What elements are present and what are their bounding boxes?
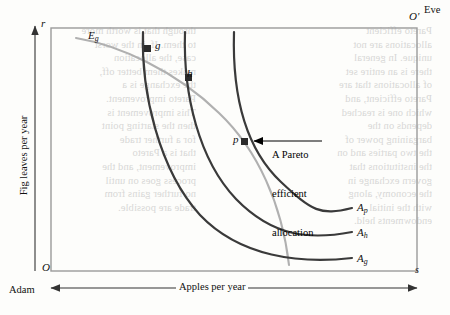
curve-adam-Ah — [185, 32, 352, 236]
edgeworth-box-drawing — [0, 0, 450, 315]
point-marker-p — [241, 138, 248, 145]
curve-adam-Ap — [234, 32, 352, 211]
point-marker-g — [144, 45, 151, 52]
figure-canvas: through that is worth more to them. If, … — [0, 0, 450, 315]
point-marker-h — [185, 74, 192, 81]
